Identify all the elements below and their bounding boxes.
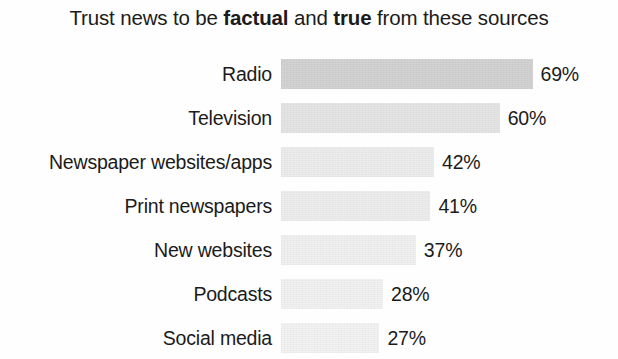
- bar-category-label: Podcasts: [0, 272, 272, 316]
- chart-title-emphasis: factual: [223, 6, 288, 29]
- bar-value-label: 60%: [508, 96, 546, 140]
- bar-row: Television60%: [0, 96, 618, 140]
- bar-category-label: Radio: [0, 52, 272, 96]
- bar-track: [281, 272, 383, 316]
- bar-value-label: 69%: [541, 52, 579, 96]
- bar-track: [281, 140, 434, 184]
- chart-title-text: Trust news to be: [69, 6, 223, 29]
- chart-title-emphasis: true: [333, 6, 371, 29]
- bar-track: [281, 52, 533, 96]
- bar-chart-plot-area: Radio69%Television60%Newspaper websites/…: [0, 52, 618, 359]
- chart-title: Trust news to be factual and true from t…: [0, 6, 618, 30]
- bar-category-label: Television: [0, 96, 272, 140]
- bar-row: Social media27%: [0, 316, 618, 359]
- bar-value-label: 27%: [387, 316, 425, 359]
- bar-category-label: Print newspapers: [0, 184, 272, 228]
- bar: [281, 59, 533, 89]
- bar: [281, 191, 430, 221]
- bar-category-label: Social media: [0, 316, 272, 359]
- chart-figure: Trust news to be factual and true from t…: [0, 0, 618, 359]
- bar: [281, 147, 434, 177]
- bar-row: Print newspapers41%: [0, 184, 618, 228]
- bar: [281, 235, 416, 265]
- bar: [281, 279, 383, 309]
- bar: [281, 323, 379, 353]
- bar-value-label: 37%: [424, 228, 462, 272]
- bar-category-label: New websites: [0, 228, 272, 272]
- bar-row: New websites37%: [0, 228, 618, 272]
- bar-track: [281, 316, 379, 359]
- bar-track: [281, 96, 500, 140]
- bar-row: Podcasts28%: [0, 272, 618, 316]
- bar-row: Newspaper websites/apps42%: [0, 140, 618, 184]
- bar-value-label: 41%: [438, 184, 476, 228]
- bar-track: [281, 228, 416, 272]
- bar-row: Radio69%: [0, 52, 618, 96]
- bar-value-label: 28%: [391, 272, 429, 316]
- chart-title-text: from these sources: [371, 6, 548, 29]
- bar-category-label: Newspaper websites/apps: [0, 140, 272, 184]
- chart-title-text: and: [288, 6, 333, 29]
- bar: [281, 103, 500, 133]
- bar-value-label: 42%: [442, 140, 480, 184]
- bar-track: [281, 184, 430, 228]
